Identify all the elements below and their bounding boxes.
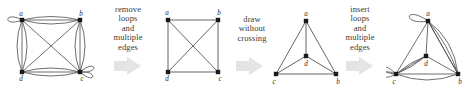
arrow-2-container [234,56,266,80]
edge-a-d [17,20,22,72]
vertex-b [456,72,460,76]
vertex-label-b: b [79,10,83,18]
edge-a-b [22,20,80,24]
vertex-label-d: d [165,75,169,83]
panel-planar-multigraph-with-loops: a d c b [386,0,472,91]
vertex-label-d: d [304,60,308,68]
edge-a-c [276,21,306,74]
vertex-label-a: a [165,9,169,17]
edge-b-d [306,56,336,74]
vertex-b [334,72,338,76]
vertex-label-c: c [392,78,396,86]
caption-remove-loops: remove loops and multiple edges [100,5,156,52]
vertex-label-a: a [19,10,23,18]
vertex-c [394,72,398,76]
vertex-label-c: c [80,75,84,83]
edge-d-c [22,72,80,76]
right-arrow-icon [114,57,141,75]
vertex-a [304,19,308,23]
edge-c-b [396,74,458,80]
vertex-label-a: a [426,10,430,18]
panel-simple-graph-with-crossing: a b d c [152,0,236,91]
vertex-label-b: b [217,9,221,17]
edge-a-b [428,21,458,74]
vertex-label-c: c [272,78,276,86]
arrow-1-container [112,56,144,80]
panel-multigraph-with-loops: a b d c [0,0,100,91]
caption-line: edges [100,43,156,52]
vertex-a [166,18,170,22]
edge-b-c [80,20,85,72]
vertex-label-b: b [336,78,340,86]
edge-b-c [75,20,80,72]
right-arrow-icon [346,57,373,75]
vertex-c [78,70,82,74]
vertex-label-b: b [458,78,462,86]
vertex-d [304,54,308,58]
edge-c-d [276,56,306,74]
edge-a-d [22,20,27,72]
vertex-c [274,72,278,76]
vertex-d [166,70,170,74]
vertex-a [426,19,430,23]
vertex-c [216,70,220,74]
vertex-label-c: c [218,75,222,83]
right-arrow-icon [236,57,263,75]
graph-transformation-figure: a b d c remove loops and multiple edges [0,0,472,91]
vertex-b [216,18,220,22]
arrow-3-container [344,56,376,80]
caption-insert-loops: insert loops and multiple edges [332,5,388,52]
vertex-d [20,70,24,74]
vertex-label-d: d [424,60,428,68]
caption-line: edges [332,43,388,52]
edge-d-c [22,68,80,72]
vertex-b [78,18,82,22]
edge-c-d [396,56,426,74]
vertex-label-d: d [19,75,23,83]
vertex-a [20,18,24,22]
vertex-label-a: a [304,10,308,18]
vertex-d [424,54,428,58]
edge-a-b [22,17,80,21]
edge-a-d [426,21,428,56]
loop-a [409,14,428,21]
